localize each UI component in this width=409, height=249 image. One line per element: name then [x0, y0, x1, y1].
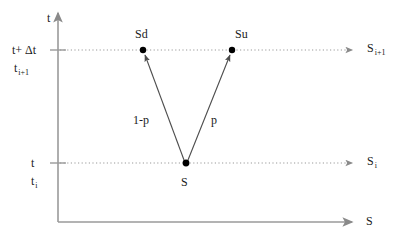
lower-level-base: S — [367, 154, 374, 168]
lower-tick-index-subscript: i — [35, 181, 37, 190]
node-su-label: Su — [235, 28, 248, 40]
upper-tick-index-base: t — [14, 61, 17, 75]
branch-down-arrow — [145, 55, 184, 160]
diagram-canvas — [0, 0, 409, 249]
upper-level-subscript: i+1 — [375, 48, 386, 57]
lower-level-subscript: i — [375, 161, 377, 170]
node-s-label: S — [181, 176, 188, 188]
branch-up-probability-label: p — [211, 114, 217, 126]
upper-tick-index-subscript: i+1 — [18, 68, 29, 77]
lower-tick-index-label: ti — [31, 175, 37, 187]
vertical-axis-label: t — [47, 12, 50, 24]
branch-up-arrow — [188, 55, 230, 160]
node-s-dot — [183, 160, 190, 167]
binomial-tree-figure: t S t+ Δt ti+1 t ti Si+1 Si Sd Su S 1-p … — [0, 0, 409, 249]
lower-tick-index-base: t — [31, 174, 34, 188]
upper-tick-label: t+ Δt — [12, 44, 36, 56]
node-sd-dot — [140, 47, 146, 53]
upper-level-base: S — [367, 41, 374, 55]
node-sd-label: Sd — [135, 28, 148, 40]
upper-level-label: Si+1 — [367, 42, 384, 54]
horizontal-axis-label: S — [366, 215, 373, 227]
branch-down-probability-label: 1-p — [133, 114, 149, 126]
upper-tick-index-label: ti+1 — [14, 62, 28, 74]
lower-tick-label: t — [31, 157, 34, 169]
node-su-dot — [229, 47, 235, 53]
lower-level-label: Si — [367, 155, 376, 167]
